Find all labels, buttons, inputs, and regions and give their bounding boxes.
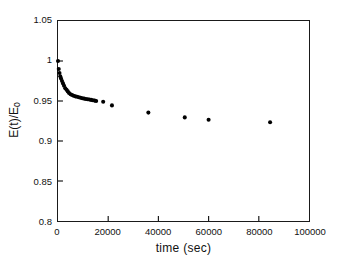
x-axis-tick-label: 100000	[294, 227, 326, 237]
y-axis-title-base: E(t)/E	[7, 107, 21, 138]
data-point	[207, 118, 211, 122]
x-axis-tick-label: 60000	[196, 227, 222, 237]
x-axis-tick-label: 0	[54, 227, 59, 237]
y-axis-tick-label: 0.95	[34, 96, 53, 106]
data-point	[268, 120, 272, 124]
y-axis-tick-label: 1.05	[34, 15, 53, 25]
plot-area	[57, 20, 310, 222]
data-point	[101, 100, 105, 104]
x-axis-tick-label: 80000	[246, 227, 272, 237]
relaxation-chart-figure: 0.80.850.90.9511.05 02000040000600008000…	[0, 0, 342, 268]
x-axis-tick-label: 20000	[94, 227, 120, 237]
data-point	[146, 111, 150, 115]
x-axis-tick-label: 40000	[145, 227, 171, 237]
y-axis-title: E(t)/E0	[7, 65, 21, 175]
data-point	[110, 103, 114, 107]
x-axis-title: time (sec)	[57, 241, 310, 255]
data-point	[94, 99, 98, 103]
y-axis-tick-label: 0.9	[39, 136, 52, 146]
data-point	[57, 67, 61, 71]
y-axis-tick-label: 0.8	[39, 217, 52, 227]
y-axis-tick-label: 1	[47, 56, 52, 66]
y-axis-title-subscript: 0	[12, 102, 22, 107]
data-point	[56, 59, 60, 63]
scatter-data-layer	[58, 21, 309, 221]
y-axis-tick-label: 0.85	[34, 177, 53, 187]
data-point	[183, 115, 187, 119]
